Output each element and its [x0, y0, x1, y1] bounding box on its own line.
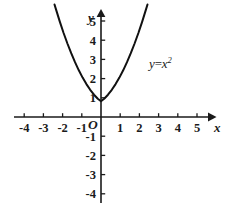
plot-canvas: [0, 0, 229, 209]
x-tick-label-4: 4: [168, 122, 188, 135]
y-tick-label-1: 1: [78, 92, 96, 105]
x-tick-label-1: 1: [110, 122, 130, 135]
x-tick-label-3: 3: [149, 122, 169, 135]
y-tick-label--2: -2: [74, 150, 96, 163]
y-tick-label--3: -3: [74, 169, 96, 182]
y-tick-label-4: 4: [78, 35, 96, 48]
x-tick-label-2: 2: [129, 122, 149, 135]
x-tick-label--2: -2: [53, 122, 73, 135]
y-tick-label--4: -4: [74, 188, 96, 201]
graph-figure: -4 -3 -2 -1 1 2 3 4 5 5 4 3 2 1 -1 -2 -3…: [0, 0, 229, 209]
origin-label: O: [88, 118, 98, 132]
curve-label-equals: =: [155, 56, 162, 71]
y-axis-arrow-icon: [97, 9, 106, 17]
y-tick-label--1: -1: [74, 131, 96, 144]
curve-equation-label: y=x2: [149, 56, 172, 70]
y-axis-label: y: [88, 11, 94, 24]
y-tick-label-2: 2: [78, 73, 96, 86]
x-tick-label-5: 5: [187, 122, 207, 135]
x-tick-label--4: -4: [14, 122, 34, 135]
x-axis-label: x: [214, 121, 221, 134]
curve-label-exponent: 2: [167, 55, 171, 65]
y-tick-label-3: 3: [78, 54, 96, 67]
x-tick-label--3: -3: [33, 122, 53, 135]
